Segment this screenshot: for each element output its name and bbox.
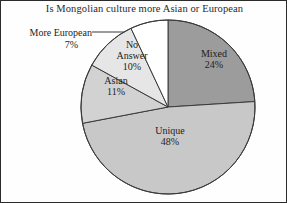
pie-label-unique: Unique 48% bbox=[141, 125, 199, 147]
pie-label-unique-name: Unique bbox=[155, 125, 184, 136]
pie-label-mixed: Mixed 24% bbox=[187, 48, 241, 70]
pie-label-asian-name: Asian bbox=[104, 75, 127, 86]
pie-label-mixed-value: 24% bbox=[187, 59, 241, 70]
pie-chart-figure: Is Mongolian culture more Asian or Europ… bbox=[0, 0, 287, 203]
pie-label-more-european-name: More European bbox=[30, 27, 92, 38]
pie-label-no-answer-name-line2: Answer bbox=[111, 50, 153, 61]
pie-label-more-european-value: 7% bbox=[4, 39, 92, 51]
pie-label-asian: Asian 11% bbox=[93, 75, 139, 97]
pie-label-no-answer-name-line1: No bbox=[126, 39, 138, 50]
pie-label-mixed-name: Mixed bbox=[201, 48, 227, 59]
pie-label-asian-value: 11% bbox=[93, 86, 139, 97]
pie-label-no-answer: No Answer 10% bbox=[111, 39, 153, 72]
pie-label-unique-value: 48% bbox=[141, 136, 199, 147]
pie-label-no-answer-value: 10% bbox=[111, 61, 153, 72]
pie-label-more-european: More European 7% bbox=[4, 27, 92, 51]
